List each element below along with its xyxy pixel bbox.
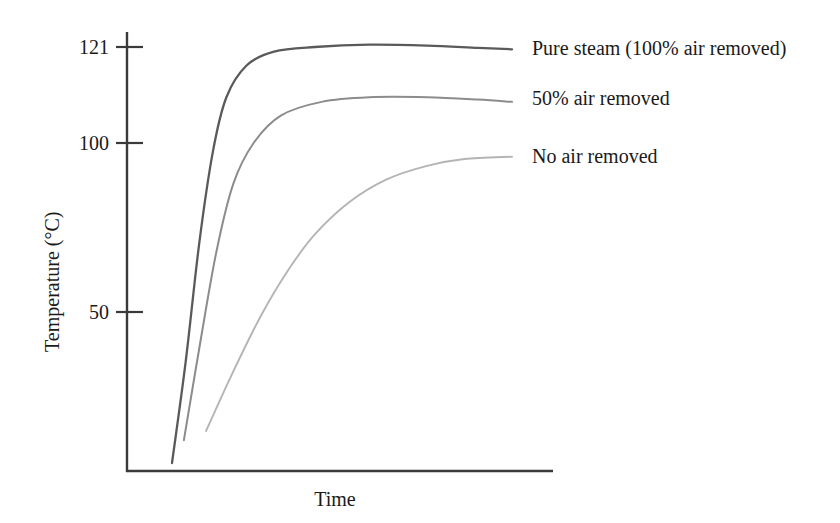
y-tick-label-100: 100 <box>79 133 109 153</box>
y-axis-title: Temperature (°C) <box>42 212 62 352</box>
series-line-no-air-removed <box>206 157 512 431</box>
legend-label-no-air-removed: No air removed <box>532 146 658 166</box>
legend-label-pure-steam: Pure steam (100% air removed) <box>532 38 786 58</box>
series-line-pure-steam <box>172 45 512 463</box>
series-line-50-percent-air-removed <box>184 97 512 440</box>
y-tick-label-121: 121 <box>79 37 109 57</box>
y-tick-label-50: 50 <box>89 302 109 322</box>
temperature-time-chart: 121 100 50 Temperature (°C) Time Pure st… <box>0 0 840 523</box>
chart-canvas <box>0 0 840 523</box>
x-axis-title: Time <box>240 489 430 509</box>
legend-label-50-percent-air-removed: 50% air removed <box>532 88 670 108</box>
